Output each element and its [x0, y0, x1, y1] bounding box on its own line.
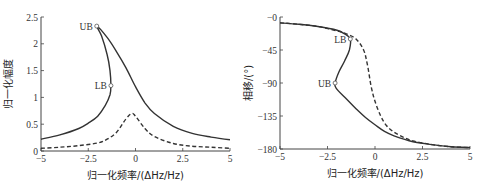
y-tick-label: −90 — [262, 79, 277, 89]
x-tick-label: −2.5 — [319, 152, 336, 162]
figure: −5−2.502.5500.511.522.5归一化频率/(ΔHz/Hz)归一化… — [0, 0, 483, 185]
x-tick-label: 2.5 — [417, 152, 429, 162]
x-tick-label: 5 — [228, 154, 233, 164]
y-tick-label: 0 — [33, 147, 38, 157]
bifurcation-marker — [95, 24, 99, 28]
dashed-curve — [41, 113, 230, 148]
x-axis-label: 归一化频率/(ΔHz/Hz) — [327, 167, 424, 179]
y-tick-label: −45 — [262, 46, 277, 56]
x-tick-label: 5 — [468, 152, 473, 162]
bifurcation-marker — [348, 37, 352, 41]
x-axis-label: 归一化频率/(ΔHz/Hz) — [87, 169, 184, 181]
dashed-curve — [280, 23, 470, 148]
amplitude-chart: −5−2.502.5500.511.522.5归一化频率/(ΔHz/Hz)归一化… — [2, 13, 233, 182]
y-axis-label: 归一化幅度 — [2, 59, 14, 109]
phase-chart: −5−2.502.55−0−45−90−135−180归一化频率/(ΔHz/Hz… — [242, 13, 473, 180]
annotation-lb: LB — [95, 81, 107, 91]
solid-curve — [280, 23, 470, 148]
annotation-ub: UB — [318, 79, 331, 89]
annotation-lb: LB — [334, 35, 346, 45]
y-tick-label: 2.5 — [26, 13, 38, 23]
y-axis-label: 相移/(°) — [242, 65, 254, 101]
x-tick-label: 0 — [133, 154, 138, 164]
y-tick-label: −135 — [257, 112, 277, 122]
x-tick-label: −2.5 — [80, 154, 97, 164]
y-tick-label: 2 — [33, 39, 38, 49]
bifurcation-marker — [333, 81, 337, 85]
x-tick-label: 2.5 — [177, 154, 189, 164]
y-tick-label: 1.5 — [26, 66, 38, 76]
x-tick-label: 0 — [373, 152, 378, 162]
bifurcation-marker — [109, 84, 113, 88]
solid-curve — [41, 26, 230, 140]
y-tick-label: −0 — [267, 13, 277, 23]
y-tick-label: 1 — [33, 93, 38, 103]
y-tick-label: 0.5 — [26, 120, 38, 130]
y-tick-label: −180 — [257, 145, 277, 155]
annotation-ub: UB — [80, 22, 93, 32]
